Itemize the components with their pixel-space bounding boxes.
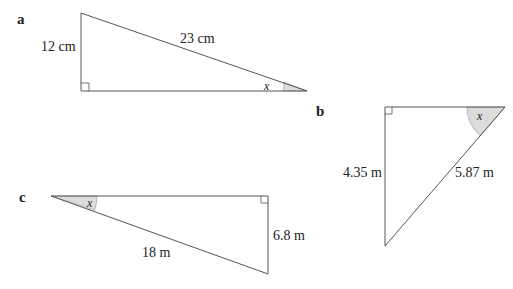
side-length-c-vertical: 6.8 m [273, 229, 305, 243]
figure-label-c: c [19, 190, 26, 205]
right-angle-marker-b [385, 107, 392, 114]
triangle-a-outline [81, 13, 307, 91]
triangle-a [81, 13, 307, 91]
side-length-a-vertical: 12 cm [41, 40, 76, 54]
side-length-c-hypotenuse: 18 m [142, 246, 170, 260]
right-angle-marker-c [261, 196, 268, 203]
triangle-c-outline [51, 196, 268, 274]
side-length-b-vertical: 4.35 m [343, 166, 382, 180]
triangles-diagram [0, 0, 513, 289]
angle-label-b: x [477, 110, 482, 122]
side-length-b-hypotenuse: 5.87 m [455, 166, 494, 180]
angle-label-a: x [264, 80, 269, 92]
right-angle-marker-a [81, 83, 89, 91]
figure-label-b: b [316, 104, 324, 119]
angle-label-c: x [87, 197, 92, 209]
figure-label-a: a [17, 12, 25, 27]
angle-x-marker-b [467, 107, 505, 136]
side-length-a-hypotenuse: 23 cm [180, 32, 215, 46]
triangle-c [51, 196, 268, 274]
